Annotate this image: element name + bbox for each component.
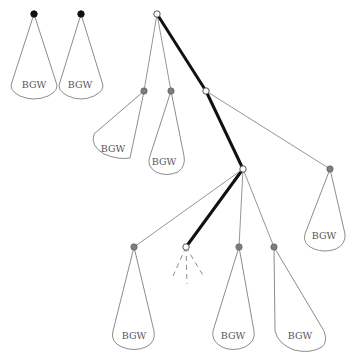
path-d-g: [186, 169, 243, 247]
subtree-cone-b: BGW: [149, 91, 185, 175]
black-node: [78, 11, 84, 17]
unexplored-branches: [173, 247, 204, 284]
edge-d-i: [243, 169, 274, 247]
grey-node: [168, 88, 174, 94]
subtree-cone-i: BGW: [274, 247, 326, 351]
subtree-cone-a: BGW: [93, 91, 144, 159]
edge-root-a: [144, 14, 157, 91]
grey-node: [141, 88, 147, 94]
bgw-label: BGW: [68, 79, 93, 90]
bgw-label: BGW: [101, 143, 126, 154]
bgw-label: BGW: [152, 156, 177, 167]
grey-node: [131, 244, 137, 250]
bgw-label: BGW: [312, 230, 337, 241]
root-node: [154, 11, 160, 17]
subtree-cone-e: BGW: [304, 169, 345, 251]
grey-node: [327, 166, 333, 172]
black-node: [31, 11, 37, 17]
bgw-label: BGW: [221, 330, 246, 341]
edge-d-h: [239, 169, 243, 247]
subtree-cone-h: BGW: [213, 247, 255, 350]
tree-diagram: BGW BGW BGW BGW BGW BGW BGW: [0, 0, 351, 358]
edge-d-f: [134, 169, 243, 247]
white-node: [240, 166, 246, 172]
bgw-label: BGW: [22, 79, 47, 90]
bgw-label: BGW: [288, 330, 313, 341]
white-node: [183, 244, 189, 250]
subtree-cone-l1: BGW: [11, 14, 57, 99]
white-node: [203, 88, 209, 94]
subtree-cone-l2: BGW: [59, 14, 103, 99]
subtree-cone-f: BGW: [112, 247, 154, 350]
grey-node: [271, 244, 277, 250]
grey-node: [236, 244, 242, 250]
bgw-label: BGW: [122, 330, 147, 341]
